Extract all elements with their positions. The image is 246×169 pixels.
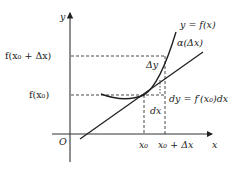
curve-label: y = f(x)	[179, 19, 216, 30]
remainder-label: α(Δx)	[177, 37, 203, 48]
delta-y-label: Δy	[145, 59, 159, 70]
tick-label-x0-plus-dx: x₀ + Δx	[158, 139, 194, 150]
dy-label: dy = f′(x₀)dx	[169, 93, 229, 104]
y-axis-label: y	[59, 11, 66, 22]
tick-label-f-x0-plus-dx: f(x₀ + Δx)	[5, 50, 51, 61]
tick-label-x0: x₀	[139, 139, 148, 150]
dx-label: dx	[150, 105, 162, 116]
x-axis-label: x	[212, 139, 218, 150]
tick-label-f-x0: f(x₀)	[29, 89, 49, 100]
differential-diagram: y x O f(x₀ + Δx) f(x₀) x₀ x₀ + Δx y = f(…	[0, 0, 246, 169]
origin-label: O	[59, 136, 67, 147]
